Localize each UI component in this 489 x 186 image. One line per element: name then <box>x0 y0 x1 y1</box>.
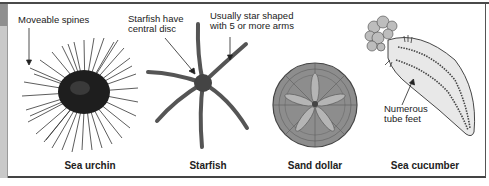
sand-dollar-illustration <box>273 63 357 147</box>
label-tube-feet-line2: tube feet <box>384 114 421 124</box>
label-star-arms-line2: with 5 or more arms <box>210 21 294 31</box>
caption-sand-dollar: Sand dollar <box>282 160 348 171</box>
starfish-illustration <box>148 24 247 147</box>
arrow-moveable-spines <box>27 28 32 65</box>
caption-sea-cucumber: Sea cucumber <box>385 160 465 171</box>
label-central-disc-line2: central disc <box>128 24 176 34</box>
arrow-central-disc <box>165 38 195 74</box>
caption-starfish: Starfish <box>180 160 236 171</box>
sea-urchin-illustration <box>22 38 138 152</box>
caption-sea-urchin: Sea urchin <box>60 160 120 171</box>
label-moveable-spines: Moveable spines <box>18 15 89 25</box>
arrow-star-arms <box>228 37 233 60</box>
